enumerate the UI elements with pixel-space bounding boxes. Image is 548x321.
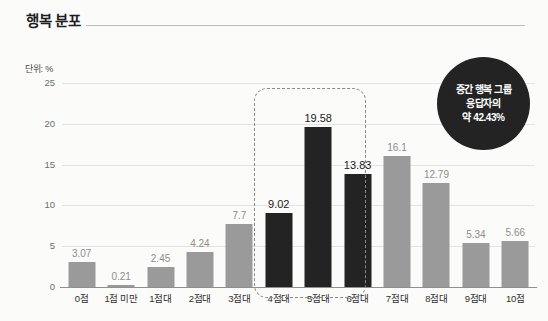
x-axis-category-label: 4점대 bbox=[268, 291, 290, 305]
bar bbox=[384, 156, 411, 287]
bar-value-label: 2.45 bbox=[151, 253, 170, 264]
y-axis-tick-label: 5 bbox=[50, 241, 55, 251]
bar-value-label: 9.02 bbox=[268, 199, 289, 210]
callout-line-3: 약 42.43% bbox=[462, 111, 504, 125]
bar bbox=[305, 127, 332, 287]
title-divider bbox=[86, 25, 525, 26]
page-title: 행복 분포 bbox=[26, 12, 81, 30]
title-row: 행복 분포 bbox=[26, 12, 526, 34]
bar-value-label: 13.83 bbox=[344, 160, 372, 171]
bar-group: 3.070점 bbox=[62, 83, 101, 287]
x-axis-category-label: 2점대 bbox=[189, 291, 211, 305]
y-axis-tick-label: 15 bbox=[44, 160, 55, 170]
bar-group: 9.024점대 bbox=[259, 83, 298, 287]
bar bbox=[147, 267, 174, 287]
chart-figure: 행복 분포 단위: % 0510152025 3.070점0.211점 미만2.… bbox=[0, 0, 548, 321]
bar-value-label: 16.1 bbox=[387, 142, 406, 153]
x-axis-category-label: 8점대 bbox=[425, 291, 447, 305]
bar bbox=[68, 262, 95, 287]
bar-group: 19.585점대 bbox=[299, 83, 338, 287]
unit-label: 단위: % bbox=[25, 62, 53, 75]
y-axis-tick-label: 25 bbox=[44, 78, 55, 88]
bar-group: 16.17점대 bbox=[377, 83, 416, 287]
x-axis-category-label: 1점 미만 bbox=[104, 291, 137, 305]
y-axis-tick-label: 10 bbox=[44, 200, 55, 210]
x-axis-line bbox=[60, 287, 537, 288]
y-axis-tick-label: 0 bbox=[50, 282, 55, 292]
bar-value-label: 12.79 bbox=[424, 169, 449, 180]
x-axis-category-label: 6점대 bbox=[346, 291, 368, 305]
callout-line-1: 중간 행복 그룹 bbox=[456, 83, 512, 97]
bar bbox=[462, 243, 489, 287]
x-axis-category-label: 3점대 bbox=[228, 291, 250, 305]
x-axis-category-label: 1점대 bbox=[149, 291, 171, 305]
bar bbox=[344, 174, 371, 287]
bar-value-label: 4.24 bbox=[190, 238, 209, 249]
bar bbox=[186, 252, 213, 287]
x-axis-category-label: 7점대 bbox=[386, 291, 408, 305]
bar-group: 13.836점대 bbox=[338, 83, 377, 287]
bar-value-label: 19.58 bbox=[304, 113, 332, 124]
bar-group: 0.211점 미만 bbox=[101, 83, 140, 287]
bar-value-label: 7.7 bbox=[232, 210, 246, 221]
bar bbox=[226, 224, 253, 287]
callout-line-2: 응답자의 bbox=[466, 97, 500, 111]
x-axis-category-label: 10점 bbox=[506, 291, 525, 305]
x-axis-category-label: 5점대 bbox=[307, 291, 329, 305]
bar-value-label: 5.66 bbox=[506, 227, 525, 238]
bar-group: 2.451점대 bbox=[141, 83, 180, 287]
x-axis-category-label: 9점대 bbox=[465, 291, 487, 305]
x-axis-category-label: 0점 bbox=[75, 291, 89, 305]
bar-value-label: 3.07 bbox=[72, 248, 91, 259]
bar-value-label: 5.34 bbox=[466, 229, 485, 240]
callout-badge: 중간 행복 그룹 응답자의 약 42.43% bbox=[437, 57, 530, 150]
y-axis-tick-label: 20 bbox=[44, 119, 55, 129]
bar-group: 7.73점대 bbox=[220, 83, 259, 287]
bar-value-label: 0.21 bbox=[111, 271, 130, 282]
bar-group: 4.242점대 bbox=[180, 83, 219, 287]
bar bbox=[423, 183, 450, 287]
bar bbox=[502, 241, 529, 287]
bar bbox=[265, 213, 292, 287]
